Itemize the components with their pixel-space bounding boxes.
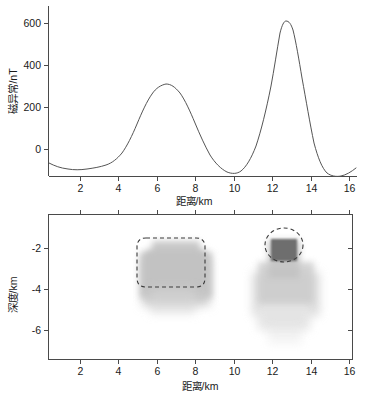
top-panel-ytick-200: 200 (23, 101, 41, 113)
top-panel-xtick-12: 12 (267, 182, 279, 194)
top-panel-xtick-2: 2 (78, 182, 84, 194)
bottom-panel-xtick-16: 16 (344, 365, 356, 377)
top-panel-ytick-400: 400 (23, 59, 41, 71)
bottom-panel-xtick-12: 12 (267, 365, 279, 377)
top-panel-xtick-6: 6 (155, 182, 161, 194)
bottom-panel-xtick-10: 10 (229, 365, 241, 377)
bottom-panel-xtick-6: 6 (155, 365, 161, 377)
magnetic-inversion-figure: 0 200 400 600 2 4 6 8 10 12 14 16 (0, 0, 369, 396)
top-panel-xtick-14: 14 (306, 182, 318, 194)
left-anomaly-body (140, 241, 212, 314)
bottom-panel-xtick-14: 14 (306, 365, 318, 377)
bottom-panel-ytick-minus4: -4 (32, 283, 41, 295)
top-panel-xtick-4: 4 (116, 182, 122, 194)
bottom-panel-xtick-4: 4 (116, 365, 122, 377)
bottom-panel-x-axis-title: 距离/km (182, 380, 219, 392)
bottom-panel-ytick-minus6: -6 (32, 324, 41, 336)
top-panel-xtick-10: 10 (229, 182, 241, 194)
top-panel-ytick-600: 600 (23, 17, 41, 29)
bottom-panel-xtick-2: 2 (78, 365, 84, 377)
top-panel-x-axis-title: 距离/km (176, 195, 213, 207)
bottom-panel-y-axis-title: 深度/km (7, 276, 19, 313)
figure-canvas: 0 200 400 600 2 4 6 8 10 12 14 16 (0, 0, 369, 396)
bottom-panel-ytick-minus2: -2 (32, 242, 41, 254)
bottom-panel-xtick-8: 8 (193, 365, 199, 377)
top-panel-ytick-0: 0 (35, 143, 41, 155)
top-panel-xtick-16: 16 (344, 182, 356, 194)
top-panel-xtick-8: 8 (193, 182, 199, 194)
top-panel-y-axis-title: 磁异常/nT (7, 68, 19, 114)
